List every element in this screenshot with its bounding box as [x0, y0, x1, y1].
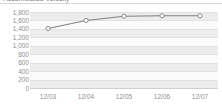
y-axis-tick-label: 600: [1, 59, 29, 66]
x-axis-line: [30, 88, 218, 89]
y-axis-tick-label: 1,000: [1, 42, 29, 49]
data-point-marker[interactable]: [198, 14, 202, 18]
chart-plot-svg: [30, 12, 218, 88]
title-divider: [0, 3, 222, 4]
y-axis-tick-label: 800: [1, 51, 29, 58]
y-axis-tick-label: 1,200: [1, 34, 29, 41]
x-axis-tick-label: 12/07: [192, 92, 208, 101]
x-axis-tick-label: 12/05: [116, 92, 132, 101]
x-axis-tick-label: 12/06: [154, 92, 170, 101]
data-point-marker[interactable]: [160, 14, 164, 18]
line-chart-widget: Accumulated Velocity 1,8001,6001,4001,20…: [0, 0, 222, 107]
y-axis-tick-label: 400: [1, 68, 29, 75]
data-point-marker[interactable]: [46, 26, 50, 30]
data-point-marker[interactable]: [122, 14, 126, 18]
y-axis: 1,8001,6001,4001,2001,0008006004002000: [0, 12, 29, 88]
x-axis: 12/0312/0412/0512/0612/07: [30, 92, 218, 102]
y-axis-tick-label: 1,800: [1, 9, 29, 16]
y-axis-tick-label: 1,600: [1, 17, 29, 24]
y-axis-tick-label: 1,400: [1, 25, 29, 32]
y-axis-tick-label: 200: [1, 76, 29, 83]
x-axis-tick-label: 12/03: [40, 92, 56, 101]
data-point-marker[interactable]: [84, 18, 88, 22]
plot-area: [30, 12, 218, 88]
x-axis-tick-label: 12/04: [78, 92, 94, 101]
y-axis-tick-label: 0: [1, 85, 29, 92]
